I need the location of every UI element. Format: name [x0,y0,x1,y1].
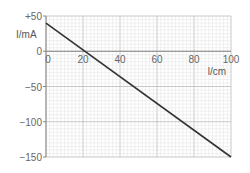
x-tick-label: 20 [77,54,89,65]
x-tick-label: 60 [151,54,163,65]
y-tick-label: +50 [25,11,42,22]
chart: +500−50−100−150020406080100I/mAl/cm [0,0,250,173]
x-tick-label: 40 [114,54,126,65]
x-tick-label: 0 [45,54,51,65]
x-axis-label: l/cm [208,66,226,77]
x-tick-label: 100 [223,54,240,65]
y-tick-label: −150 [19,152,42,163]
y-axis-label: I/mA [16,29,37,40]
y-tick-label: 0 [36,46,42,57]
y-tick-label: −100 [19,117,42,128]
x-tick-label: 80 [188,54,200,65]
y-tick-label: −50 [25,82,42,93]
